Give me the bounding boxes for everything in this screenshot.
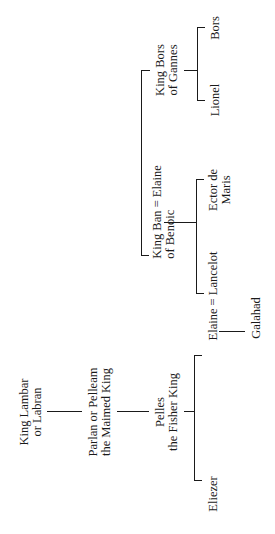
line-parlan-pelles bbox=[117, 411, 149, 412]
bracket-pelles-children bbox=[194, 355, 195, 481]
node-king-ban-elaine: King Ban = Elaine of Benoic bbox=[151, 165, 177, 259]
node-parlan: Parlan or Pelleam the Maimed King bbox=[87, 368, 113, 457]
node-pelles-line2: the Fisher King bbox=[167, 373, 180, 451]
tick-king-ban bbox=[141, 255, 149, 256]
tick-king-bors bbox=[141, 70, 150, 71]
node-king-bors-line2: of Gannes bbox=[167, 44, 180, 96]
node-elaine-lancelot-line1: Elaine = Lancelot bbox=[207, 252, 220, 341]
node-parlan-line2: the Maimed King bbox=[100, 368, 113, 457]
line-pelles-stem bbox=[184, 411, 194, 412]
node-king-lambar-line2: or Labran bbox=[31, 379, 44, 446]
node-bors: Bors bbox=[209, 16, 222, 40]
node-ector: Ector de Maris bbox=[207, 169, 233, 211]
bracket-ban-bors bbox=[141, 70, 142, 256]
node-pelles: Pelles the Fisher King bbox=[154, 373, 180, 451]
node-galahad-line1: Galahad bbox=[250, 297, 263, 339]
node-king-bors: King Bors of Gannes bbox=[154, 44, 180, 96]
tick-lionel bbox=[197, 100, 205, 101]
tick-lancelot bbox=[196, 293, 204, 294]
node-bors-line1: Bors bbox=[209, 16, 222, 40]
node-lionel-line1: Lionel bbox=[209, 84, 222, 117]
tick-bors bbox=[197, 27, 205, 28]
line-bors-stem bbox=[184, 70, 197, 71]
node-galahad: Galahad bbox=[250, 297, 263, 339]
tick-ector bbox=[196, 179, 204, 180]
tick-elaine bbox=[194, 355, 202, 356]
node-lionel: Lionel bbox=[209, 84, 222, 117]
node-eliezer-line1: Eliezer bbox=[207, 476, 220, 511]
node-king-lambar: King Lambar or Labran bbox=[18, 379, 44, 446]
bracket-ban-children bbox=[196, 179, 197, 294]
node-king-ban-line2: of Benoic bbox=[164, 165, 177, 259]
line-lambar-parlan bbox=[47, 411, 82, 412]
line-galahad-descent bbox=[219, 331, 245, 332]
node-elaine-lancelot: Elaine = Lancelot bbox=[207, 252, 220, 341]
tick-eliezer bbox=[194, 480, 202, 481]
node-ector-line2: Maris bbox=[220, 169, 233, 211]
node-eliezer: Eliezer bbox=[207, 476, 220, 511]
bracket-bors-children bbox=[197, 27, 198, 101]
genealogy-diagram: King Lambar or Labran Parlan or Pelleam … bbox=[0, 0, 275, 534]
line-ban-children-stem bbox=[164, 222, 197, 223]
